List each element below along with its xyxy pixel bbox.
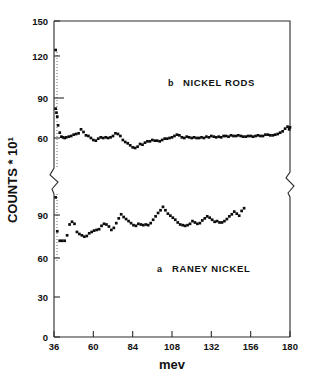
lower-data-point [63, 239, 66, 242]
lower-data-point [154, 215, 157, 218]
x-ticks [54, 331, 290, 337]
lower-data-point [61, 239, 64, 242]
upper-data-point [109, 136, 112, 139]
lower-data-point [58, 239, 61, 242]
ytick-label-lower-30: 30 [37, 292, 48, 303]
upper-data-point [65, 136, 68, 139]
y-axis-title-main: COUNTS * 10 [5, 141, 20, 223]
lower-data-point [169, 214, 172, 217]
upper-data-point [215, 136, 218, 139]
lower-data-point [189, 222, 192, 225]
lower-data-point [152, 218, 155, 221]
upper-data-point [77, 132, 80, 135]
upper-data-point [126, 142, 129, 145]
lower-data-point [95, 229, 98, 232]
lower-data-point [179, 223, 182, 226]
lower-data-point [137, 222, 140, 225]
lower-data-point [66, 234, 69, 237]
upper-data-point [80, 128, 83, 131]
lower-data-point [93, 229, 96, 232]
upper-data-point [58, 131, 61, 134]
upper-data-point [107, 137, 110, 140]
lower-data-point [191, 220, 194, 223]
lower-data-point [240, 210, 243, 213]
upper-data-point [166, 137, 169, 140]
upper-data-point [112, 135, 115, 138]
upper-data-point [259, 135, 262, 138]
lower-data-point [221, 221, 224, 224]
upper-data-point [75, 133, 78, 136]
lower-data-point [223, 220, 226, 223]
lower-data-point [216, 220, 219, 223]
upper-series-label: NICKEL RODS [183, 77, 255, 88]
upper-data-point [151, 139, 154, 142]
lower-data-point [115, 222, 118, 225]
lower-data-point [228, 215, 231, 218]
upper-data-point [117, 133, 120, 136]
upper-data-point [289, 126, 292, 129]
upper-data-point [119, 135, 122, 138]
figure-container: 150 120 90 60 90 60 30 0 366084108132156… [0, 0, 316, 377]
upper-data-point [72, 133, 75, 136]
upper-data-point [54, 107, 57, 110]
lower-data-point [108, 225, 111, 228]
lower-data-point [88, 232, 91, 235]
upper-y-tick-labels: 150 120 90 60 [32, 16, 48, 144]
upper-data-point [205, 135, 208, 138]
upper-data-point [257, 134, 260, 137]
upper-data-point [274, 133, 277, 136]
lower-data-point [135, 224, 138, 227]
upper-data-point [217, 135, 220, 138]
upper-data-point [85, 134, 88, 137]
lower-series-points [54, 196, 245, 242]
upper-data-point [190, 137, 193, 140]
upper-data-point [99, 136, 102, 139]
lower-data-point [164, 209, 167, 212]
upper-data-point [249, 135, 252, 138]
lower-data-point [213, 220, 216, 223]
ytick-label-upper-150: 150 [32, 16, 48, 27]
upper-data-point [129, 144, 132, 147]
lower-data-point [147, 224, 150, 227]
upper-data-point [55, 111, 58, 114]
upper-data-point [57, 124, 60, 127]
lower-data-point [238, 214, 241, 217]
plot-frame [50, 21, 294, 337]
upper-data-point [254, 135, 257, 138]
upper-data-point [235, 135, 238, 138]
upper-data-point [146, 140, 149, 143]
upper-data-point [208, 136, 211, 139]
lower-data-point [90, 231, 93, 234]
frame-top-right-path [54, 21, 294, 337]
upper-data-point [185, 135, 188, 138]
upper-data-point [180, 136, 183, 139]
upper-data-point [87, 135, 90, 138]
lower-data-point [73, 222, 76, 225]
lower-data-point [201, 219, 204, 222]
upper-data-point [158, 140, 161, 143]
ytick-label-upper-90: 90 [37, 93, 48, 104]
upper-data-point [90, 137, 93, 140]
upper-series-points [54, 49, 291, 150]
upper-data-point [178, 134, 181, 137]
lower-data-point [76, 231, 79, 234]
upper-data-point [139, 143, 142, 146]
lower-data-point [157, 212, 160, 215]
lower-data-point [125, 218, 128, 221]
upper-data-point [195, 137, 198, 140]
upper-data-point [67, 135, 70, 138]
lower-data-point [78, 233, 81, 236]
upper-data-point [54, 49, 57, 52]
y-axis-title: COUNTS * 101 [5, 136, 20, 223]
ytick-label-lower-0: 0 [43, 332, 48, 343]
xtick-label-132: 132 [203, 341, 219, 352]
lower-data-point [68, 223, 71, 226]
lower-data-point [85, 235, 88, 238]
xtick-label-108: 108 [164, 341, 180, 352]
upper-data-point [163, 137, 166, 140]
upper-data-point [281, 130, 284, 133]
upper-data-point [200, 136, 203, 139]
upper-data-point [124, 141, 127, 144]
upper-data-point [102, 137, 105, 140]
upper-data-point [252, 135, 255, 138]
